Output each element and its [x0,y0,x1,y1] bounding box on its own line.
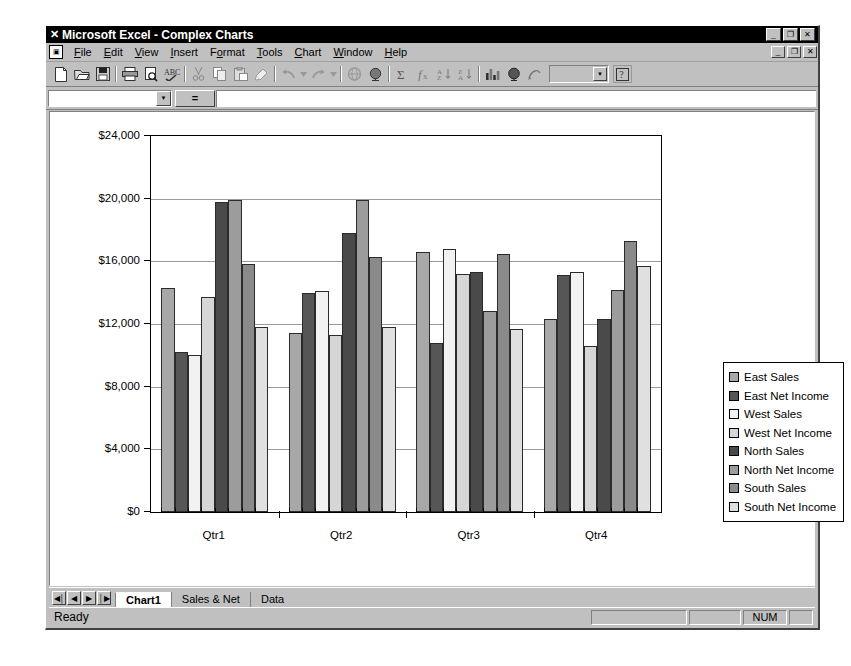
legend-swatch-icon [729,409,739,419]
bar-qtr3-south-sales[interactable] [497,254,510,513]
restore-button[interactable]: ❐ [783,28,798,41]
bar-qtr3-west-sales[interactable] [443,249,456,512]
name-box[interactable]: ▼ [48,90,172,107]
bar-qtr3-west-net-income[interactable] [456,274,469,512]
paste-icon[interactable] [230,64,251,84]
x-axis-minor-tick [201,508,202,512]
menu-item-help[interactable]: Help [379,45,414,59]
menu-item-tools[interactable]: Tools [251,45,289,59]
y-axis-tick-label: $16,000 [98,254,140,266]
bar-qtr1-east-net-income[interactable] [175,352,188,512]
name-box-dropdown-arrow-icon[interactable]: ▼ [156,91,171,106]
bar-qtr2-east-sales[interactable] [289,333,302,512]
formula-input[interactable] [216,90,816,107]
bar-qtr1-east-sales[interactable] [161,288,174,512]
open-icon[interactable] [71,64,92,84]
paste-function-icon[interactable]: fx [413,64,434,84]
bar-qtr3-east-net-income[interactable] [430,343,443,512]
first-sheet-button[interactable]: ◀│ [52,591,66,605]
legend-entry[interactable]: North Net Income [729,461,836,480]
insert-hyperlink-icon[interactable] [344,64,365,84]
workbook-document-icon[interactable]: ▣ [49,45,63,59]
y-axis-tick-label: $20,000 [98,192,140,204]
menu-item-view[interactable]: View [129,45,165,59]
bar-qtr1-north-net-income[interactable] [228,200,241,512]
copy-icon[interactable] [209,64,230,84]
menu-item-file[interactable]: File [68,45,98,59]
bar-qtr1-north-sales[interactable] [215,202,228,512]
help-icon[interactable]: ? [613,65,632,83]
bar-qtr3-north-net-income[interactable] [483,311,496,512]
new-icon[interactable] [50,64,71,84]
sort-descending-icon[interactable]: ZA [455,64,476,84]
bar-qtr2-east-net-income[interactable] [302,293,315,512]
last-sheet-button[interactable]: │▶ [97,591,111,605]
drawing-icon[interactable] [524,64,545,84]
cut-icon[interactable] [188,64,209,84]
bar-qtr2-west-net-income[interactable] [329,335,342,512]
bar-qtr3-south-net-income[interactable] [510,329,523,512]
format-painter-icon[interactable] [251,64,272,84]
redo-dropdown-icon[interactable] [329,64,338,84]
next-sheet-button[interactable]: ▶ [82,591,96,605]
bar-qtr2-west-sales[interactable] [315,291,328,512]
edit-formula-button[interactable]: = [175,90,215,107]
document-restore-button[interactable]: ❐ [787,46,801,58]
print-icon[interactable] [119,64,140,84]
bar-qtr2-south-net-income[interactable] [382,327,395,512]
document-minimize-button[interactable]: _ [771,46,785,58]
menu-item-chart[interactable]: Chart [288,45,327,59]
bar-qtr4-south-sales[interactable] [624,241,637,512]
sheet-tab-data[interactable]: Data [250,592,294,607]
legend-entry[interactable]: West Net Income [729,424,836,443]
chart-object[interactable]: $24,000$20,000$16,000$12,000$8,000$4,000… [50,112,814,585]
menu-item-insert[interactable]: Insert [164,45,204,59]
bar-qtr4-east-net-income[interactable] [557,275,570,512]
print-preview-icon[interactable] [140,64,161,84]
bar-qtr2-north-net-income[interactable] [356,200,369,512]
bar-qtr1-west-net-income[interactable] [201,297,214,512]
menu-item-edit[interactable]: Edit [98,45,129,59]
bar-qtr2-north-sales[interactable] [342,233,355,512]
undo-icon[interactable] [278,64,299,84]
menu-item-window[interactable]: Window [327,45,378,59]
chart-wizard-icon[interactable] [482,64,503,84]
spelling-icon[interactable]: ABC [161,64,182,84]
legend-entry[interactable]: East Net Income [729,387,836,406]
menu-item-format[interactable]: Format [204,45,251,59]
sort-ascending-icon[interactable]: AZ [434,64,455,84]
bar-qtr1-south-net-income[interactable] [255,327,268,512]
bar-qtr1-south-sales[interactable] [242,264,255,512]
web-toolbar-icon[interactable] [365,64,386,84]
map-icon[interactable] [503,64,524,84]
bar-qtr4-south-net-income[interactable] [637,266,650,512]
plot-area[interactable] [150,135,662,513]
bar-qtr3-north-sales[interactable] [470,272,483,512]
sheet-tab-sales-net[interactable]: Sales & Net [171,592,250,607]
autosum-icon[interactable]: Σ [392,64,413,84]
legend-entry[interactable]: South Sales [729,479,836,498]
bar-qtr2-south-sales[interactable] [369,257,382,512]
minimize-button[interactable]: _ [766,28,781,41]
redo-icon[interactable] [308,64,329,84]
previous-sheet-button[interactable]: ◀ [67,591,81,605]
legend-entry[interactable]: West Sales [729,405,836,424]
bar-qtr4-west-net-income[interactable] [584,346,597,512]
bar-qtr4-west-sales[interactable] [570,272,583,512]
bar-qtr1-west-sales[interactable] [188,355,201,512]
close-button[interactable]: ✕ [800,28,815,41]
bar-qtr3-east-sales[interactable] [416,252,429,512]
bar-qtr4-north-sales[interactable] [597,319,610,512]
legend-entry[interactable]: South Net Income [729,498,836,517]
undo-dropdown-icon[interactable] [299,64,308,84]
sheet-tab-chart1[interactable]: Chart1 [115,592,171,607]
legend-entry[interactable]: North Sales [729,442,836,461]
zoom-dropdown-arrow-icon[interactable]: ▼ [593,67,607,81]
bar-qtr4-north-net-income[interactable] [611,290,624,512]
zoom-combo[interactable]: ▼ [549,65,609,83]
save-icon[interactable] [92,64,113,84]
bar-qtr4-east-sales[interactable] [544,319,557,512]
chart-legend[interactable]: East SalesEast Net IncomeWest SalesWest … [723,362,844,522]
document-close-button[interactable]: ✕ [803,46,817,58]
legend-entry[interactable]: East Sales [729,368,836,387]
